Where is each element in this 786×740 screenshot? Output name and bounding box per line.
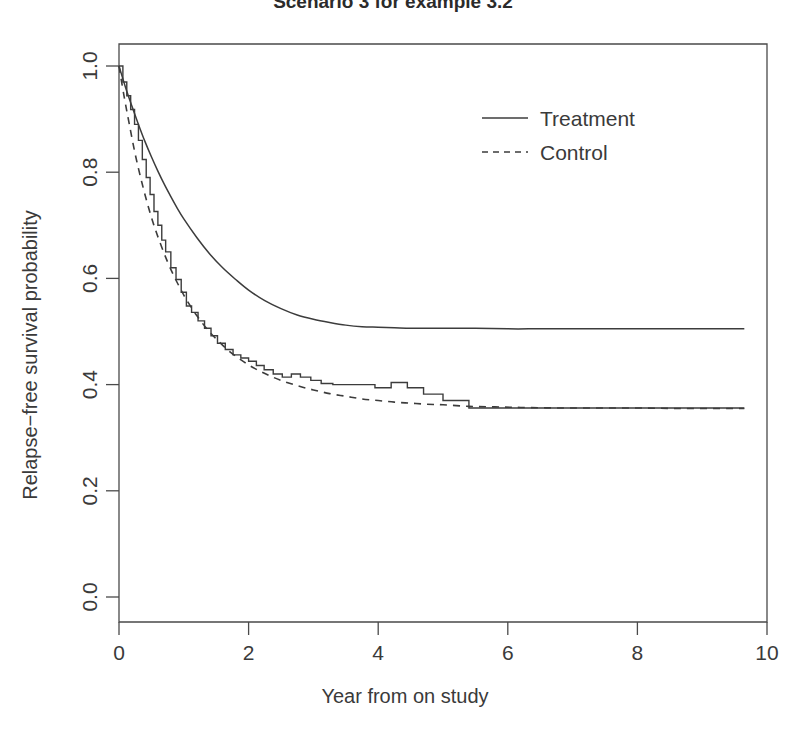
- y-tick-label: 0.2: [78, 476, 101, 505]
- x-axis-ticks: 0246810: [113, 622, 779, 664]
- page-title: Scenario 3 for example 3.2: [273, 0, 513, 12]
- y-tick-label: 0.4: [78, 370, 101, 400]
- y-tick-label: 0.8: [78, 158, 101, 187]
- legend-item-treatment: Treatment: [482, 107, 635, 130]
- series-layer: [119, 66, 744, 409]
- x-tick-label: 4: [372, 641, 384, 664]
- series-path-control: [119, 66, 744, 409]
- y-tick-label: 1.0: [78, 51, 101, 80]
- series-path-kaplan-meier-estimate: [119, 66, 744, 408]
- x-tick-label: 0: [113, 641, 125, 664]
- plot-border: [119, 44, 767, 622]
- y-tick-label: 0.0: [78, 582, 101, 611]
- x-tick-label: 6: [502, 641, 514, 664]
- y-tick-label: 0.6: [78, 264, 101, 293]
- x-tick-label: 2: [243, 641, 255, 664]
- x-axis-label: Year from on study: [321, 685, 488, 707]
- x-tick-label: 10: [755, 641, 778, 664]
- legend: Treatment Control: [482, 107, 635, 164]
- x-tick-label: 8: [632, 641, 644, 664]
- series-path-treatment: [119, 66, 744, 329]
- chart-canvas: Scenario 3 for example 3.2 0246810 0.00.…: [0, 0, 786, 740]
- legend-label-treatment: Treatment: [540, 107, 635, 130]
- legend-item-control: Control: [482, 141, 608, 164]
- y-axis-ticks: 0.00.20.40.60.81.0: [78, 51, 119, 611]
- survival-plot-figure: Scenario 3 for example 3.2 0246810 0.00.…: [0, 0, 786, 740]
- y-axis-label: Relapse−free survival probability: [19, 210, 41, 500]
- legend-label-control: Control: [540, 141, 608, 164]
- axis-frame: [119, 44, 767, 622]
